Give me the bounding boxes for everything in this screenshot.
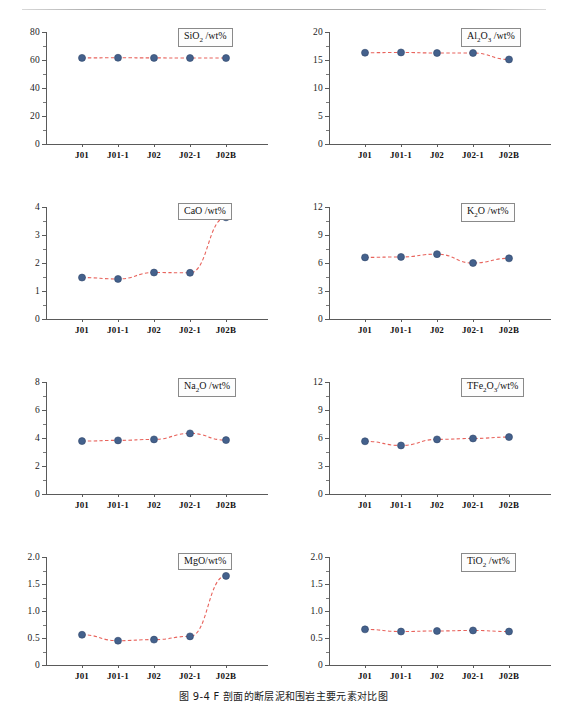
y-tick-label-tio2-3: 1.5 <box>311 579 323 589</box>
y-tick-label-tfe2o3-2: 6 <box>318 433 323 443</box>
plot-area-sio2: 020406080J01J01-1J02J02-1J02B <box>46 32 262 144</box>
plot-area-mgo: 00.51.01.52.0J01J01-1J02J02-1J02B <box>46 557 262 665</box>
x-tick-tio2-3 <box>473 665 474 668</box>
x-tick-label-tfe2o3-4: J02B <box>499 500 519 510</box>
x-tick-al2o3-4 <box>509 144 510 147</box>
series-tio2 <box>329 557 545 665</box>
y-tick-label-k2o-3: 9 <box>318 230 323 240</box>
x-tick-label-cao-4: J02B <box>216 325 236 335</box>
data-point-tfe2o3-2 <box>434 436 441 443</box>
x-tick-label-tio2-3: J02-1 <box>462 671 484 681</box>
y-tick-label-sio2-0: 0 <box>35 139 40 149</box>
legend-cao: CaO /wt% <box>178 203 232 220</box>
y-tick-label-k2o-0: 0 <box>318 314 323 324</box>
x-axis-sio2 <box>46 144 268 145</box>
x-tick-k2o-3 <box>473 319 474 322</box>
data-point-sio2-4 <box>223 55 230 62</box>
x-tick-al2o3-1 <box>401 144 402 147</box>
x-tick-label-sio2-2: J02 <box>147 150 161 160</box>
x-tick-mgo-4 <box>226 665 227 668</box>
plot-area-na2o: 02468J01J01-1J02J02-1J02B <box>46 382 262 494</box>
x-tick-cao-2 <box>154 319 155 322</box>
x-axis-na2o <box>46 494 268 495</box>
x-tick-mgo-2 <box>154 665 155 668</box>
x-tick-cao-3 <box>190 319 191 322</box>
x-tick-mgo-3 <box>190 665 191 668</box>
x-tick-label-sio2-3: J02-1 <box>179 150 201 160</box>
x-tick-sio2-4 <box>226 144 227 147</box>
figure-caption: 图 9-4 F 剖面的断层泥和围岩主要元素对比图 <box>0 688 567 703</box>
y-tick-label-mgo-2: 1.0 <box>28 606 40 616</box>
y-tick-label-sio2-2: 40 <box>30 83 40 93</box>
chart-panel-tfe2o3: 036912J01J01-1J02J02-1J02BTFe2O3/wt% <box>283 366 567 541</box>
y-tick-label-tio2-1: 0.5 <box>311 633 323 643</box>
y-tick-label-cao-1: 1 <box>35 286 40 296</box>
data-point-k2o-2 <box>434 251 441 258</box>
data-point-sio2-1 <box>115 54 122 61</box>
x-tick-label-na2o-3: J02-1 <box>179 500 201 510</box>
data-point-na2o-2 <box>151 436 158 443</box>
data-point-cao-2 <box>151 269 158 276</box>
data-point-al2o3-0 <box>362 49 369 56</box>
y-tick-label-tfe2o3-4: 12 <box>313 377 323 387</box>
y-tick-label-tio2-4: 2.0 <box>311 552 323 562</box>
y-tick-label-mgo-1: 0.5 <box>28 633 40 643</box>
data-point-k2o-0 <box>362 254 369 261</box>
x-tick-al2o3-3 <box>473 144 474 147</box>
x-tick-label-al2o3-3: J02-1 <box>462 150 484 160</box>
x-tick-tfe2o3-3 <box>473 494 474 497</box>
x-tick-label-tfe2o3-1: J01-1 <box>390 500 412 510</box>
y-tick-label-al2o3-0: 0 <box>318 139 323 149</box>
y-tick-label-na2o-0: 0 <box>35 489 40 499</box>
x-tick-label-cao-0: J01 <box>75 325 89 335</box>
data-point-tio2-1 <box>398 628 405 635</box>
y-tick-cao-0 <box>42 319 46 320</box>
chart-panel-cao: 01234J01J01-1J02J02-1J02BCaO /wt% <box>0 191 283 366</box>
x-axis-cao <box>46 319 268 320</box>
legend-sio2: SiO2 /wt% <box>178 28 233 47</box>
x-tick-na2o-2 <box>154 494 155 497</box>
x-tick-label-k2o-1: J01-1 <box>390 325 412 335</box>
x-tick-label-cao-2: J02 <box>147 325 161 335</box>
y-tick-label-tfe2o3-3: 9 <box>318 405 323 415</box>
series-tfe2o3 <box>329 382 545 494</box>
x-tick-mgo-0 <box>82 665 83 668</box>
data-point-sio2-3 <box>187 55 194 62</box>
x-tick-label-sio2-1: J01-1 <box>107 150 129 160</box>
x-tick-sio2-3 <box>190 144 191 147</box>
x-tick-sio2-2 <box>154 144 155 147</box>
x-tick-tfe2o3-1 <box>401 494 402 497</box>
y-tick-label-mgo-3: 1.5 <box>28 579 40 589</box>
chart-panel-sio2: 020406080J01J01-1J02J02-1J02BSiO2 /wt% <box>0 16 283 191</box>
x-tick-tio2-2 <box>437 665 438 668</box>
x-tick-tfe2o3-0 <box>365 494 366 497</box>
data-point-tio2-4 <box>506 628 513 635</box>
chart-panel-tio2: 00.51.01.52.0J01J01-1J02J02-1J02BTiO2 /w… <box>283 541 567 706</box>
y-tick-label-mgo-0: 0 <box>35 660 40 670</box>
data-point-al2o3-4 <box>506 56 513 63</box>
data-point-tfe2o3-0 <box>362 438 369 445</box>
y-tick-label-k2o-2: 6 <box>318 258 323 268</box>
data-point-al2o3-2 <box>434 50 441 57</box>
y-tick-k2o-0 <box>325 319 329 320</box>
x-tick-label-mgo-2: J02 <box>147 671 161 681</box>
x-tick-cao-4 <box>226 319 227 322</box>
x-tick-label-na2o-2: J02 <box>147 500 161 510</box>
x-tick-k2o-4 <box>509 319 510 322</box>
x-tick-label-sio2-0: J01 <box>75 150 89 160</box>
y-tick-label-mgo-4: 2.0 <box>28 552 40 562</box>
y-tick-label-tfe2o3-1: 3 <box>318 461 323 471</box>
plot-area-tio2: 00.51.01.52.0J01J01-1J02J02-1J02B <box>329 557 545 665</box>
y-tick-label-tio2-2: 1.0 <box>311 606 323 616</box>
y-tick-label-tfe2o3-0: 0 <box>318 489 323 499</box>
y-tick-label-al2o3-4: 20 <box>313 27 323 37</box>
data-point-sio2-0 <box>79 54 86 61</box>
series-sio2 <box>46 32 262 144</box>
x-tick-label-mgo-3: J02-1 <box>179 671 201 681</box>
x-axis-k2o <box>329 319 551 320</box>
data-point-mgo-4 <box>223 572 230 579</box>
data-point-k2o-4 <box>506 255 513 262</box>
data-point-na2o-0 <box>79 438 86 445</box>
data-point-cao-1 <box>115 275 122 282</box>
plot-area-al2o3: 05101520J01J01-1J02J02-1J02B <box>329 32 545 144</box>
